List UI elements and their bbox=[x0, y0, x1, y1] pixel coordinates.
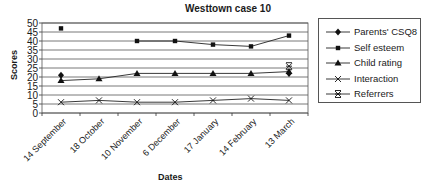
triangle-marker-icon bbox=[172, 70, 179, 76]
x-tick-label: 13 March bbox=[263, 116, 297, 150]
x-legend-icon bbox=[324, 72, 352, 86]
triangle-marker-icon bbox=[335, 60, 342, 66]
square-marker-icon bbox=[336, 45, 340, 49]
triangle-marker-icon bbox=[134, 70, 141, 76]
square-marker-icon bbox=[59, 26, 63, 30]
square-marker-icon bbox=[173, 39, 177, 43]
x-tick-label: 18 October bbox=[68, 116, 107, 155]
x-tick-label: 17 January bbox=[182, 116, 221, 155]
y-tick-label: 50 bbox=[27, 18, 39, 29]
legend-label: Child rating bbox=[354, 57, 402, 68]
x-tick-label: 6 December bbox=[141, 116, 183, 158]
square-marker-icon bbox=[249, 44, 253, 48]
square-marker-icon bbox=[135, 39, 139, 43]
square-marker-icon bbox=[211, 42, 215, 46]
legend-item: Self esteem bbox=[319, 41, 420, 55]
square-legend-icon bbox=[324, 41, 352, 55]
star-legend-icon bbox=[324, 87, 352, 101]
legend-item: Child rating bbox=[319, 56, 420, 70]
legend-label: Parents' CSQ8 bbox=[354, 26, 417, 37]
x-tick-label: 14 February bbox=[217, 116, 259, 158]
series-child-rating bbox=[58, 68, 293, 83]
legend-label: Referrers bbox=[354, 88, 394, 99]
x-tick-label: 14 September bbox=[21, 116, 68, 163]
legend-item: Parents' CSQ8 bbox=[319, 25, 420, 39]
triangle-marker-icon bbox=[210, 70, 217, 76]
series-self-esteem bbox=[59, 26, 291, 48]
square-marker-icon bbox=[287, 33, 291, 37]
legend-label: Self esteem bbox=[354, 42, 404, 53]
diamond-marker-icon bbox=[335, 29, 341, 36]
star-marker-icon bbox=[335, 91, 341, 98]
legend-label: Interaction bbox=[354, 73, 398, 84]
diamond-legend-icon bbox=[324, 25, 352, 39]
legend-item: Referrers bbox=[319, 87, 420, 101]
legend: Parents' CSQ8Self esteemChild ratingInte… bbox=[318, 18, 421, 103]
triangle-legend-icon bbox=[324, 56, 352, 70]
legend-item: Interaction bbox=[319, 72, 420, 86]
